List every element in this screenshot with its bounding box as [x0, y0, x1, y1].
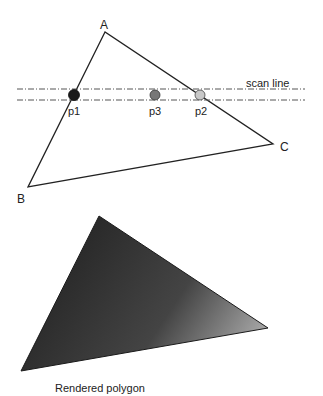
point-p3: [150, 90, 160, 100]
point-label-p3: p3: [149, 105, 161, 117]
point-label-p2: p2: [195, 105, 207, 117]
point-label-p1: p1: [68, 105, 80, 117]
scan-line-label: scan line: [246, 77, 289, 89]
point-p2: [195, 90, 205, 100]
rendered-polygon: [21, 216, 268, 371]
point-p1: [69, 90, 80, 101]
scanline-diagram: scan line A B C p1 p3 p2 Rendered polygo…: [0, 0, 323, 396]
vertex-label-b: B: [17, 192, 25, 206]
rendered-polygon-caption: Rendered polygon: [55, 382, 145, 394]
vertex-label-c: C: [280, 140, 289, 154]
vertex-label-a: A: [100, 18, 108, 32]
